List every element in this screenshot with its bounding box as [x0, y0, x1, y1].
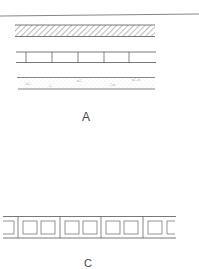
panel-label-c: C — [84, 258, 92, 269]
panel-label-a: A — [82, 110, 90, 124]
svg-text:∴: ∴ — [49, 84, 52, 88]
top-rule — [0, 14, 199, 16]
svg-text:o∴: o∴ — [26, 82, 31, 86]
boxed-band — [3, 217, 176, 239]
svg-text:o∴: o∴ — [77, 79, 82, 83]
svg-text:∴o: ∴o — [110, 83, 115, 87]
svg-text:o∴ o: o∴ o — [132, 78, 140, 82]
stippled-band: o∴ ∴ o∴ ∴o o∴ o — [17, 78, 155, 90]
segmented-band — [16, 52, 156, 63]
hatched-band — [15, 25, 155, 37]
